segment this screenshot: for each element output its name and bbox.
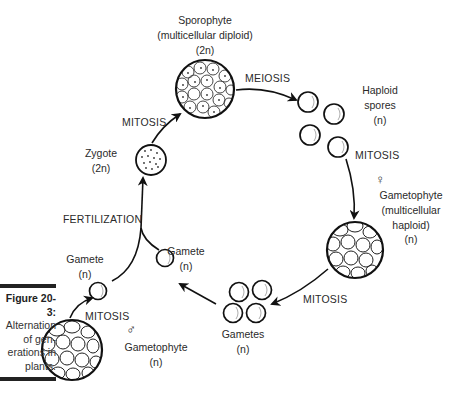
mitosis-male-label: MITOSIS — [85, 310, 129, 322]
zygote-cell — [136, 145, 166, 175]
figure-caption: Figure 20-3: Alternation of gen- eration… — [0, 292, 56, 373]
caption-line: of gen- — [0, 333, 56, 347]
meiosis-arrow — [236, 89, 296, 100]
gametes-ploidy: (n) — [237, 343, 250, 355]
gamete-right-ploidy: (n) — [180, 260, 193, 272]
sporophyte-label: Sporophyte — [178, 14, 232, 26]
spores-label-1: Haploid — [362, 84, 398, 96]
sporophyte-ploidy: (2n) — [196, 44, 215, 56]
female-gametophyte-cell — [326, 220, 383, 279]
caption-line: Alternation — [0, 319, 56, 333]
fertilization-left-branch — [112, 228, 141, 281]
gamete-left-cell — [90, 283, 107, 300]
sporophyte-desc: (multicellular diploid) — [157, 29, 253, 41]
caption-title: Figure 20-3: — [0, 292, 56, 319]
mitosis-zygote-label: MITOSIS — [122, 116, 166, 128]
female-gametophyte-desc2: haploid) — [392, 219, 429, 231]
life-cycle-diagram: Sporophyte (multicellular diploid) (2n) … — [0, 0, 457, 396]
spores-label-2: spores — [364, 99, 396, 111]
male-symbol-icon: ♂ — [126, 322, 136, 337]
female-gametophyte-ploidy: (n) — [405, 233, 418, 245]
mitosis-spores-label: MITOSIS — [355, 149, 399, 161]
sporophyte-cell — [176, 60, 236, 118]
meiosis-label: MEIOSIS — [245, 72, 290, 84]
mitosis-gametes-label: MITOSIS — [303, 293, 347, 305]
caption-top-rule — [0, 284, 56, 288]
caption-line: plants. — [0, 360, 56, 374]
female-gametophyte-label: Gametophyte — [379, 189, 442, 201]
gametes-label: Gametes — [222, 328, 265, 340]
caption-line: erations in — [0, 346, 56, 360]
haploid-spores — [298, 92, 348, 157]
gamete-left-ploidy: (n) — [79, 268, 92, 280]
gamete-right-label: Gamete — [167, 245, 205, 257]
male-gametophyte-label: Gametophyte — [124, 341, 187, 353]
fertilization-label: FERTILIZATION — [63, 213, 142, 225]
fertilization-right-branch — [141, 228, 159, 250]
gamete-release-arrow — [180, 284, 216, 304]
zygote-label: Zygote — [85, 147, 117, 159]
female-symbol-icon: ♀ — [375, 172, 385, 187]
gametes-cluster — [224, 281, 272, 323]
male-gametophyte-ploidy: (n) — [150, 356, 163, 368]
zygote-ploidy: (2n) — [92, 162, 111, 174]
spores-ploidy: (n) — [374, 114, 387, 126]
gamete-left-label: Gamete — [66, 253, 104, 265]
caption-bottom-rule — [0, 377, 56, 381]
female-gametophyte-desc1: (multicellular — [382, 204, 441, 216]
mitosis-spores-arrow — [346, 159, 354, 218]
